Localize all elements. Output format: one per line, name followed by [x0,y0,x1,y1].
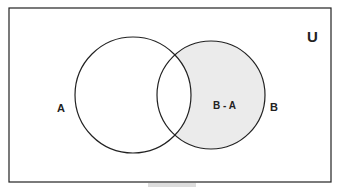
set-a-label: A [57,102,65,114]
caption-placeholder [148,183,196,187]
venn-diagram: U A B B - A [0,0,345,187]
universe-label: U [307,28,318,45]
shaded-region-label: B - A [213,100,236,111]
set-b-label: B [270,101,278,113]
